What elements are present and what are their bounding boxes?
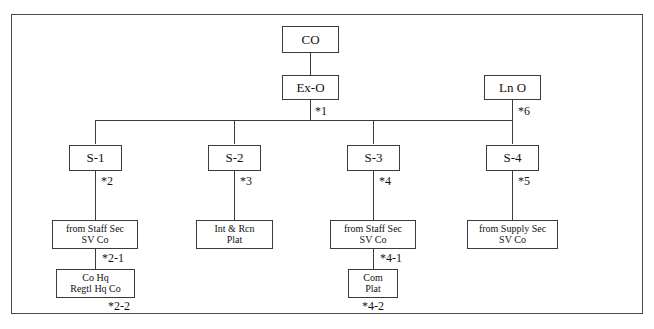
node-int-rcn-plat-line-1: Plat <box>227 235 243 245</box>
connector-co-to-exo <box>310 53 311 75</box>
chart-frame: CO Ex-O *1 Ln O *6 S-1 *2 S-2 *3 S-3 *4 … <box>11 14 643 314</box>
node-co-hq[interactable]: Co Hq Regtl Hq Co <box>56 269 135 298</box>
node-exo-line-0: Ex-O <box>296 81 324 94</box>
ref-label-com-plat: *4-2 <box>362 299 384 314</box>
node-s2[interactable]: S-2 <box>208 145 261 171</box>
organization-chart-canvas: CO Ex-O *1 Ln O *6 S-1 *2 S-2 *3 S-3 *4 … <box>0 0 654 329</box>
node-s3[interactable]: S-3 <box>347 145 400 171</box>
connector-staffsec-to-complat <box>373 249 374 269</box>
node-supply-sec[interactable]: from Supply Sec SV Co <box>467 220 558 249</box>
node-s4[interactable]: S-4 <box>486 145 539 171</box>
node-com-plat[interactable]: Com Plat <box>348 269 398 298</box>
connector-bus-to-s1 <box>95 120 96 144</box>
connector-s1-to-staffsec <box>95 171 96 220</box>
node-exo[interactable]: Ex-O <box>282 75 339 100</box>
node-s4-line-0: S-4 <box>503 151 521 164</box>
connector-s3-to-staffsec <box>373 171 374 220</box>
node-co-hq-line-0: Co Hq <box>82 273 108 283</box>
ref-label-s4: *5 <box>518 174 530 189</box>
node-s1[interactable]: S-1 <box>69 145 122 171</box>
node-int-rcn-plat[interactable]: Int & Rcn Plat <box>196 220 273 249</box>
node-int-rcn-plat-line-0: Int & Rcn <box>215 224 255 234</box>
node-s2-line-0: S-2 <box>225 151 243 164</box>
connector-bus-to-s4 <box>512 120 513 144</box>
connector-staffsec-to-cohq <box>95 249 96 269</box>
ref-label-s2: *3 <box>240 174 252 189</box>
ref-label-s1: *2 <box>101 174 113 189</box>
connector-bus-to-s3 <box>373 120 374 144</box>
node-com-plat-line-0: Com <box>363 273 382 283</box>
ref-label-s3: *4 <box>379 174 391 189</box>
node-co[interactable]: CO <box>282 26 339 53</box>
ref-label-exo: *1 <box>315 104 327 119</box>
connector-horizontal-bus <box>95 120 513 121</box>
node-lno[interactable]: Ln O <box>484 75 541 100</box>
connector-bus-to-s2 <box>234 120 235 144</box>
node-s3-staff-sec-line-0: from Staff Sec <box>344 224 402 234</box>
connector-s4-to-supplysec <box>512 171 513 220</box>
node-co-hq-line-1: Regtl Hq Co <box>70 284 121 294</box>
node-com-plat-line-1: Plat <box>365 284 381 294</box>
ref-label-co-hq: *2-2 <box>108 299 130 314</box>
node-s3-staff-sec-line-1: SV Co <box>360 235 387 245</box>
ref-label-s3-staff-sec: *4-1 <box>380 251 402 266</box>
node-s1-staff-sec-line-1: SV Co <box>82 235 109 245</box>
ref-label-lno: *6 <box>518 104 530 119</box>
connector-s2-to-intrcn <box>234 171 235 220</box>
node-s1-staff-sec[interactable]: from Staff Sec SV Co <box>52 220 138 249</box>
node-co-line-0: CO <box>301 33 319 46</box>
node-supply-sec-line-1: SV Co <box>499 235 526 245</box>
node-s1-staff-sec-line-0: from Staff Sec <box>66 224 124 234</box>
ref-label-s1-staff-sec: *2-1 <box>102 251 124 266</box>
node-lno-line-0: Ln O <box>499 81 526 94</box>
node-s3-staff-sec[interactable]: from Staff Sec SV Co <box>330 220 416 249</box>
node-s1-line-0: S-1 <box>86 151 104 164</box>
node-s3-line-0: S-3 <box>364 151 382 164</box>
node-supply-sec-line-0: from Supply Sec <box>479 224 546 234</box>
